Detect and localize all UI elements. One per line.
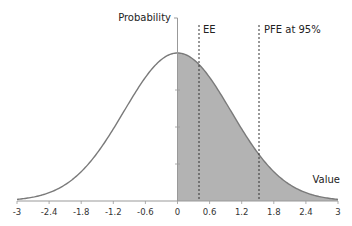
x-axis-label: Value — [313, 174, 340, 185]
x-tick-label: -3 — [13, 207, 21, 217]
x-tick-label: 0 — [175, 207, 180, 217]
x-axis-ticks: -3-2.4-1.8-1.2-0.600.61.21.82.43 — [13, 201, 341, 217]
x-tick-label: 1.8 — [267, 207, 281, 217]
x-tick-label: -2.4 — [41, 207, 58, 217]
ee-label: EE — [203, 24, 216, 35]
x-tick-label: -0.6 — [137, 207, 154, 217]
y-axis-label: Probability — [118, 12, 171, 23]
pfe-label: PFE at 95% — [264, 24, 321, 35]
x-tick-label: -1.2 — [105, 207, 122, 217]
x-tick-label: 0.6 — [203, 207, 217, 217]
chart-svg: -3-2.4-1.8-1.2-0.600.61.21.82.43 Probabi… — [0, 0, 352, 226]
x-tick-label: 2.4 — [299, 207, 313, 217]
x-tick-label: -1.8 — [73, 207, 90, 217]
x-tick-label: 3 — [335, 207, 340, 217]
x-tick-label: 1.2 — [235, 207, 249, 217]
